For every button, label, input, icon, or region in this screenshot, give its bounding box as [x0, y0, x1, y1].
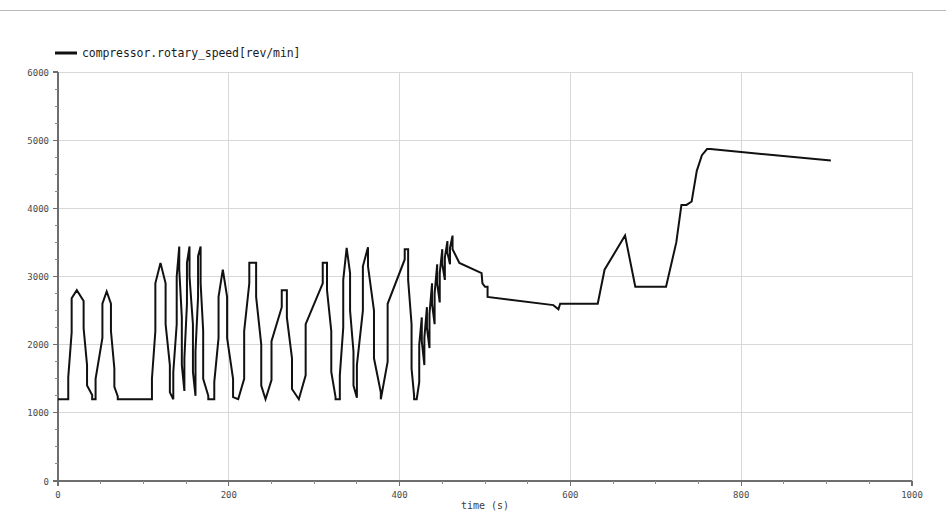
y-tick-label: 4000: [27, 204, 49, 214]
x-tick-label: 1000: [901, 490, 923, 500]
chart-screenshot-root: 0100020003000400050006000 02004006008001…: [0, 0, 946, 530]
y-tick-label: 2000: [27, 340, 49, 350]
y-tick-label: 6000: [27, 68, 49, 78]
series-group: [58, 149, 831, 399]
y-tick-label: 5000: [27, 136, 49, 146]
series-compressor-rotary-speed: [58, 149, 831, 399]
x-tick-label: 400: [391, 490, 407, 500]
x-tick-label: 800: [733, 490, 749, 500]
y-tick-label: 1000: [27, 408, 49, 418]
rotary-speed-line-chart: 0100020003000400050006000 02004006008001…: [0, 0, 946, 530]
chart-legend: compressor.rotary_speed[rev/min]: [55, 46, 300, 60]
x-tick-label: 600: [562, 490, 578, 500]
x-tick-labels: 02004006008001000: [55, 490, 923, 500]
y-tick-labels: 0100020003000400050006000: [27, 68, 49, 487]
x-axis-title: time (s): [461, 500, 509, 511]
legend-label-compressor-rotary-speed: compressor.rotary_speed[rev/min]: [82, 46, 300, 60]
x-tick-label: 200: [221, 490, 237, 500]
chart-plot-svg: 0100020003000400050006000 02004006008001…: [0, 0, 946, 530]
x-tick-label: 0: [55, 490, 60, 500]
y-tick-label: 3000: [27, 272, 49, 282]
y-tick-label: 0: [44, 477, 49, 487]
